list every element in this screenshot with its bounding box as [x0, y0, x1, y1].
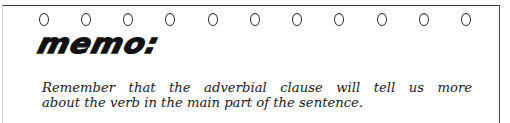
binder-ring-icon [419, 13, 429, 26]
binder-ring-icon [81, 13, 91, 26]
binder-ring-icon [377, 13, 387, 26]
binder-ring-icon [165, 13, 175, 26]
binder-ring-icon [250, 13, 260, 26]
binder-ring-icon [334, 13, 344, 26]
memo-body-text: Remember that the adverbial clause will … [42, 80, 472, 110]
binder-ring-icon [208, 13, 218, 26]
binder-ring-icon [123, 13, 133, 26]
binder-ring-icon [39, 13, 49, 26]
memo-body-line-1: Remember that the adverbial clause will … [42, 80, 472, 95]
memo-body-line-2: about the verb in the main part of the s… [42, 95, 472, 110]
binder-ring-icon [292, 13, 302, 26]
binder-ring-icon [461, 13, 471, 26]
memo-title: memo: [35, 30, 162, 58]
